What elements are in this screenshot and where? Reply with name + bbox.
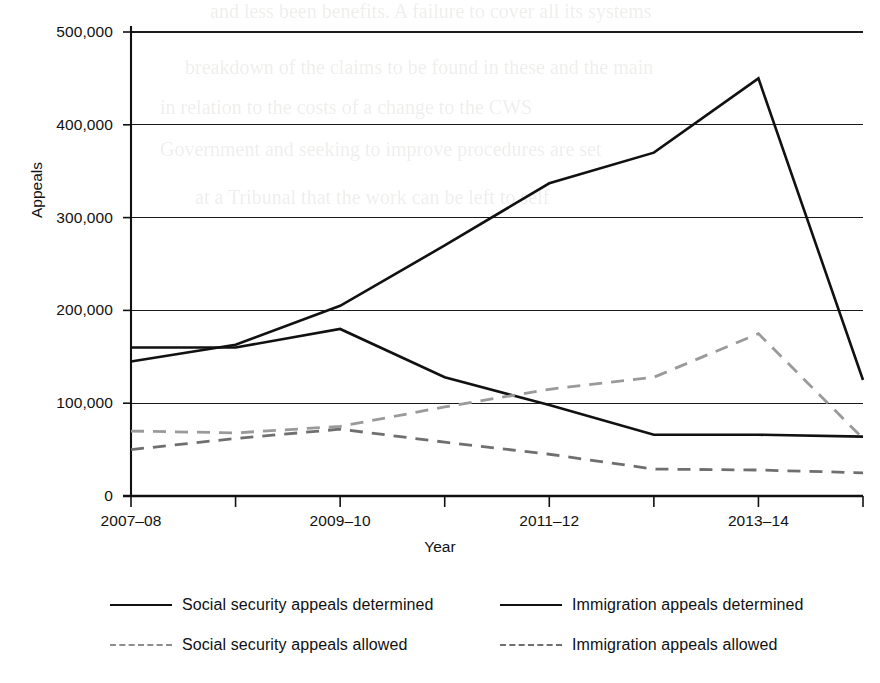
legend-label: Immigration appeals determined	[572, 596, 804, 614]
legend-swatch-solid-icon	[500, 598, 562, 612]
appeals-line-chart: and less been benefits. A failure to cov…	[0, 0, 880, 683]
series-line-2	[131, 334, 863, 439]
legend-item-immigration-determined[interactable]: Immigration appeals determined	[500, 596, 804, 614]
x-tick-label: 2009–10	[310, 512, 371, 530]
legend-swatch-dashed-icon	[110, 638, 172, 652]
legend-item-social-security-allowed[interactable]: Social security appeals allowed	[110, 636, 407, 654]
y-tick-label: 500,000	[0, 23, 113, 41]
legend-swatch-dashed-icon	[500, 638, 562, 652]
chart-legend: Social security appeals determined Immig…	[0, 592, 880, 670]
x-axis-title: Year	[0, 538, 880, 556]
x-tick-label: 2013–14	[728, 512, 789, 530]
legend-item-social-security-determined[interactable]: Social security appeals determined	[110, 596, 434, 614]
y-tick-label: 200,000	[0, 301, 113, 319]
legend-swatch-solid-icon	[110, 598, 172, 612]
series-line-1	[131, 329, 863, 437]
axis-lines-group	[123, 26, 863, 496]
legend-item-immigration-allowed[interactable]: Immigration appeals allowed	[500, 636, 777, 654]
series-line-0	[131, 78, 863, 380]
y-axis-title: Appeals	[28, 162, 46, 218]
legend-label: Immigration appeals allowed	[572, 636, 777, 654]
y-tick-label: 0	[0, 487, 113, 505]
data-series-group	[131, 78, 863, 472]
plot-area: 0100,000200,000300,000400,000500,000 200…	[0, 0, 880, 580]
y-tick-label: 100,000	[0, 394, 113, 412]
x-tick-marks-group	[131, 496, 863, 507]
plot-canvas	[0, 0, 880, 580]
y-tick-label: 400,000	[0, 116, 113, 134]
x-tick-label: 2011–12	[519, 512, 579, 530]
x-tick-label: 2007–08	[100, 512, 161, 530]
y-tick-label: 300,000	[0, 209, 113, 227]
legend-label: Social security appeals allowed	[182, 636, 407, 654]
legend-label: Social security appeals determined	[182, 596, 434, 614]
